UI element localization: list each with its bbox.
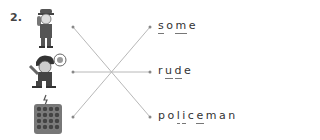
letter: r: [158, 64, 165, 77]
letter: o: [166, 19, 175, 32]
letter: u: [165, 64, 174, 77]
right-dot-3[interactable]: [149, 116, 152, 119]
letter: e: [184, 64, 193, 77]
letter: a: [219, 109, 228, 122]
letter: e: [196, 109, 205, 122]
left-dot-3[interactable]: [72, 116, 75, 119]
right-dot-2[interactable]: [149, 71, 152, 74]
letter: d: [175, 64, 184, 77]
word-some: some: [158, 19, 198, 32]
left-dot-1[interactable]: [72, 26, 75, 29]
letter: e: [189, 19, 198, 32]
letter: s: [158, 19, 166, 32]
left-dot-2[interactable]: [72, 71, 75, 74]
letter: n: [228, 109, 237, 122]
letter: c: [188, 109, 197, 122]
word-policeman: policeman: [158, 109, 238, 122]
letter: m: [206, 109, 219, 122]
word-rude: rude: [158, 64, 193, 77]
right-dot-1[interactable]: [149, 26, 152, 29]
letter: o: [167, 109, 176, 122]
letter: m: [175, 19, 188, 32]
letter: i: [182, 109, 188, 122]
